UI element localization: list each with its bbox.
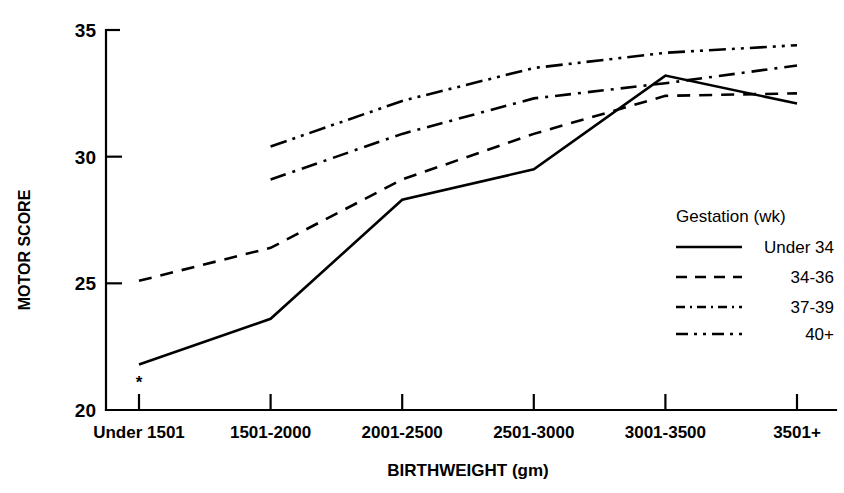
legend-title: Gestation (wk) (676, 207, 786, 226)
x-tick-label-under-1501: Under 1501 (93, 423, 185, 442)
x-tick-label-1501-2000: 1501-2000 (230, 423, 311, 442)
x-tick-label-2001-2500: 2001-2500 (362, 423, 443, 442)
x-axis-title: BIRTHWEIGHT (gm) (387, 461, 548, 480)
y-tick-label-30: 30 (75, 147, 96, 168)
series-line-37-39 (271, 65, 797, 179)
chart-canvas: 35 30 25 20 Under 1501 1501-2000 2001-25… (0, 0, 844, 493)
motor-score-birthweight-chart: 35 30 25 20 Under 1501 1501-2000 2001-25… (0, 0, 844, 493)
legend-label-34-36: 34-36 (791, 268, 834, 287)
y-tick-label-20: 20 (75, 400, 96, 421)
series-line-40-plus (271, 45, 797, 146)
x-tick-label-3001-3500: 3001-3500 (625, 423, 706, 442)
legend-label-40-plus: 40+ (805, 325, 834, 344)
asterisk-marker: * (136, 373, 143, 392)
legend: Gestation (wk) Under 34 34-36 37-39 40+ (676, 207, 834, 344)
y-tick-label-35: 35 (75, 20, 97, 41)
series-line-34-36 (139, 93, 797, 280)
legend-label-under-34: Under 34 (764, 238, 834, 257)
y-tick-label-25: 25 (75, 273, 97, 294)
x-tick-label-3501-plus: 3501+ (773, 423, 821, 442)
legend-label-37-39: 37-39 (791, 298, 834, 317)
y-axis-title: MOTOR SCORE (16, 189, 33, 310)
x-tick-label-2501-3000: 2501-3000 (493, 423, 574, 442)
